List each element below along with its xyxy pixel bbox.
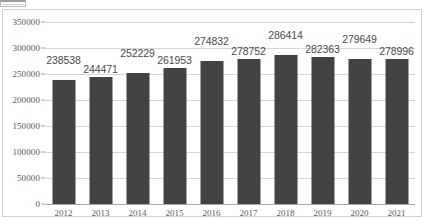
bar[interactable] <box>163 68 186 204</box>
x-axis-tick-label: 2014 <box>129 208 147 218</box>
toolbar-fragment-line <box>2 4 24 5</box>
bar-value-label: 252229 <box>120 47 154 59</box>
x-axis-tick-label: 2012 <box>55 208 73 218</box>
bar-group[interactable]: 2748322016 <box>193 22 230 204</box>
bar-group[interactable]: 2796492020 <box>341 22 378 204</box>
bar-value-label: 278996 <box>379 45 413 57</box>
y-axis-tick-label: 200000 <box>12 95 40 105</box>
bar[interactable] <box>200 61 223 204</box>
x-axis-tick-label: 2015 <box>166 208 184 218</box>
y-axis-tick-label: 300000 <box>12 43 40 53</box>
bar-group[interactable]: 2823632019 <box>304 22 341 204</box>
bar[interactable] <box>385 59 408 204</box>
bar-value-label: 238538 <box>46 54 80 66</box>
chart-frame: 0500001000001500002000002500003000003500… <box>2 9 422 217</box>
bar[interactable] <box>89 77 112 204</box>
x-axis-tick-label: 2016 <box>203 208 221 218</box>
bar-group[interactable]: 2385382012 <box>45 22 82 204</box>
x-axis-tick-label: 2020 <box>351 208 369 218</box>
toolbar-fragment <box>0 0 26 7</box>
bar-value-label: 244471 <box>83 63 117 75</box>
y-axis-tick-label: 150000 <box>12 121 40 131</box>
bar-group[interactable]: 2864142018 <box>267 22 304 204</box>
bar-group[interactable]: 2789962021 <box>378 22 415 204</box>
x-axis-tick-label: 2019 <box>314 208 332 218</box>
bar-value-label: 278752 <box>231 45 265 57</box>
x-axis-tick-label: 2021 <box>388 208 406 218</box>
bar[interactable] <box>348 59 371 204</box>
bar-value-label: 274832 <box>194 35 228 47</box>
bar-value-label: 286414 <box>268 29 302 41</box>
bar-value-label: 282363 <box>305 43 339 55</box>
bar[interactable] <box>126 73 149 204</box>
bar[interactable] <box>52 80 75 204</box>
bar-group[interactable]: 2619532015 <box>156 22 193 204</box>
x-axis-tick-label: 2018 <box>277 208 295 218</box>
plot-area: 0500001000001500002000002500003000003500… <box>45 22 415 204</box>
bars-group: 2385382012244471201325222920142619532015… <box>45 22 415 204</box>
axis-baseline <box>45 204 415 205</box>
bar[interactable] <box>274 55 297 204</box>
y-axis-tick-label: 350000 <box>12 17 40 27</box>
y-axis-tick-label: 0 <box>35 199 40 209</box>
bar[interactable] <box>311 57 334 204</box>
chart-screenshot: 0500001000001500002000002500003000003500… <box>0 0 424 219</box>
bar-group[interactable]: 2787522017 <box>230 22 267 204</box>
bar-group[interactable]: 2444712013 <box>82 22 119 204</box>
y-axis-tick-label: 100000 <box>12 147 40 157</box>
x-axis-tick-label: 2013 <box>92 208 110 218</box>
bar[interactable] <box>237 59 260 204</box>
bar-value-label: 279649 <box>342 33 376 45</box>
bar-value-label: 261953 <box>157 54 191 66</box>
bar-group[interactable]: 2522292014 <box>119 22 156 204</box>
y-axis-tick-label: 50000 <box>17 173 40 183</box>
y-axis-tick-label: 250000 <box>12 69 40 79</box>
x-axis-tick-label: 2017 <box>240 208 258 218</box>
